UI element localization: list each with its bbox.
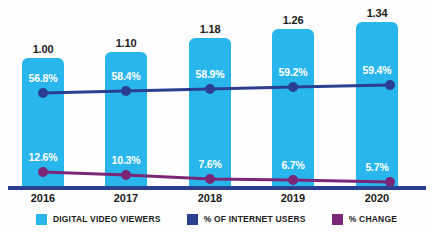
internet-users-label-2020: 59.4% — [356, 64, 398, 76]
percent-change-label-2019: 6.7% — [270, 159, 316, 171]
legend-swatch-icon-digital-video-viewers — [36, 214, 47, 225]
legend-label-percent-change: % CHANGE — [349, 214, 397, 224]
percent-change-point-2016 — [38, 167, 48, 177]
x-axis-line — [8, 186, 426, 190]
percent-change-point-2018 — [205, 174, 215, 184]
x-axis-tick-2020: 2020 — [356, 192, 398, 204]
percent-change-label-2016: 12.6% — [20, 151, 66, 163]
percent-change-point-2017 — [121, 170, 131, 180]
legend-item-percent-change[interactable]: % CHANGE — [332, 214, 397, 225]
internet-users-point-2017 — [121, 86, 131, 96]
legend-label-digital-video-viewers: DIGITAL VIDEO VIEWERS — [53, 214, 161, 224]
legend-item-digital-video-viewers[interactable]: DIGITAL VIDEO VIEWERS — [36, 214, 161, 225]
chart-container: 1.00 1.10 1.18 1.26 1.34 56.8% 58.4% 58.… — [0, 0, 433, 232]
internet-users-point-2020 — [385, 80, 395, 90]
legend-item-percent-of-internet-users[interactable]: % OF INTERNET USERS — [187, 214, 306, 225]
legend-label-percent-of-internet-users: % OF INTERNET USERS — [204, 214, 306, 224]
internet-users-line — [43, 85, 390, 93]
x-axis-tick-2017: 2017 — [105, 192, 147, 204]
internet-users-point-2016 — [38, 88, 48, 98]
internet-users-label-2019: 59.2% — [272, 66, 314, 78]
percent-change-label-2020: 5.7% — [354, 161, 400, 173]
internet-users-point-2018 — [205, 84, 215, 94]
internet-users-label-2016: 56.8% — [22, 72, 64, 84]
internet-users-point-2019 — [288, 82, 298, 92]
internet-users-label-2017: 58.4% — [105, 70, 147, 82]
x-axis-tick-2016: 2016 — [22, 192, 64, 204]
internet-users-label-2018: 58.9% — [189, 68, 231, 80]
percent-change-label-2018: 7.6% — [187, 158, 233, 170]
percent-change-line — [43, 172, 390, 182]
x-axis-tick-2018: 2018 — [189, 192, 231, 204]
percent-change-point-2019 — [288, 175, 298, 185]
plot-area: 1.00 1.10 1.18 1.26 1.34 56.8% 58.4% 58.… — [0, 0, 433, 190]
chart-legend: DIGITAL VIDEO VIEWERS % OF INTERNET USER… — [0, 206, 433, 232]
x-axis-tick-2019: 2019 — [272, 192, 314, 204]
legend-swatch-icon-percent-change — [332, 214, 343, 225]
legend-swatch-icon-percent-of-internet-users — [187, 214, 198, 225]
percent-change-label-2017: 10.3% — [103, 154, 149, 166]
